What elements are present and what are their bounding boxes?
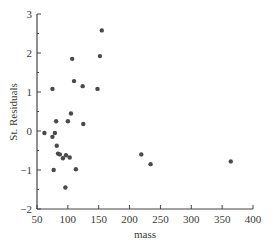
data-point — [69, 111, 73, 115]
data-point — [72, 79, 76, 83]
x-tick-label: 150 — [90, 213, 107, 225]
y-tick-label: −1 — [20, 164, 32, 176]
data-point — [58, 152, 62, 156]
data-point — [50, 87, 54, 91]
y-tick-label: −2 — [20, 203, 32, 215]
scatter-chart: −2−10123 50100150200250300350400 mass St… — [0, 0, 278, 250]
data-point — [66, 119, 70, 123]
data-point — [139, 152, 143, 156]
y-tick-label: 2 — [27, 47, 33, 59]
x-tick-label: 200 — [121, 213, 138, 225]
x-axis-title: mass — [134, 228, 156, 240]
data-point — [61, 156, 65, 160]
data-point — [148, 162, 152, 166]
y-axis-title: St. Residuals — [7, 83, 19, 140]
data-point — [63, 185, 67, 189]
data-point — [42, 131, 46, 135]
data-point — [74, 167, 78, 171]
data-points — [42, 28, 233, 190]
x-tick-label: 100 — [60, 213, 77, 225]
data-point — [50, 135, 54, 139]
y-tick-label: 1 — [27, 86, 33, 98]
x-tick-label: 50 — [32, 213, 44, 225]
data-point — [70, 57, 74, 61]
data-point — [53, 131, 57, 135]
x-tick-label: 400 — [245, 213, 262, 225]
data-point — [55, 144, 59, 148]
data-point — [80, 84, 84, 88]
y-tick-label: 3 — [27, 8, 33, 20]
y-axis: −2−10123 — [20, 8, 41, 215]
data-point — [229, 159, 233, 163]
x-tick-label: 300 — [183, 213, 200, 225]
data-point — [100, 28, 104, 32]
x-axis: 50100150200250300350400 — [32, 205, 262, 225]
y-tick-label: 0 — [27, 125, 33, 137]
x-tick-label: 250 — [152, 213, 169, 225]
data-point — [51, 168, 55, 172]
data-point — [81, 122, 85, 126]
data-point — [68, 155, 72, 159]
x-tick-label: 350 — [214, 213, 231, 225]
data-point — [54, 119, 58, 123]
data-point — [98, 54, 102, 58]
data-point — [95, 87, 99, 91]
data-point — [64, 153, 68, 157]
